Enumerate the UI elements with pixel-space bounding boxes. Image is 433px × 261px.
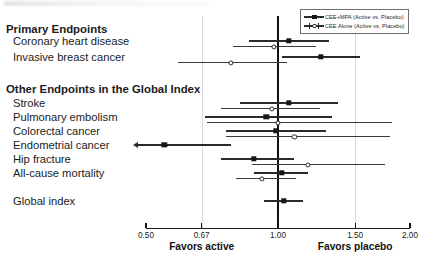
point-estimate-marker-cee-alone (272, 44, 277, 49)
axis-tick-label: 1.50 (347, 232, 363, 240)
point-estimate-marker-cee-mpa (318, 54, 323, 59)
confidence-interval (138, 144, 231, 145)
point-estimate-marker-cee-mpa (251, 156, 256, 161)
confidence-interval (252, 164, 385, 165)
legend-label: CEE Alone (Active vs. Placebo) (325, 23, 405, 29)
point-estimate-marker-cee-alone (270, 106, 275, 111)
confidence-interval (226, 136, 390, 137)
legend-open-circle-icon (303, 22, 325, 30)
point-estimate-marker-cee-alone (275, 120, 280, 125)
axis-tick-0.67 (201, 223, 202, 228)
axis-tick-label: 0.50 (138, 232, 154, 240)
axis-tick-1.00 (277, 223, 278, 228)
gridline-0.67 (202, 16, 203, 228)
axis-tick-label: 2.00 (402, 232, 418, 240)
point-estimate-marker-cee-mpa (161, 142, 166, 147)
axis-tick-2.00 (409, 223, 410, 228)
axis-tick-1.50 (355, 223, 356, 228)
point-estimate-marker-cee-mpa (286, 38, 291, 43)
point-estimate-marker-cee-mpa (281, 198, 286, 203)
x-axis-line (146, 228, 410, 229)
confidence-interval (207, 122, 392, 123)
point-estimate-marker-cee-mpa (263, 114, 268, 119)
point-estimate-marker-cee-alone (305, 162, 310, 167)
favors-placebo-caption: Favors placebo (318, 242, 393, 252)
forest-plot-figure: Primary EndpointsCoronary heart diseaseI… (0, 0, 433, 261)
point-estimate-marker-cee-mpa (286, 100, 291, 105)
point-estimate-marker-cee-alone (260, 176, 265, 181)
point-estimate-marker-cee-mpa (273, 128, 278, 133)
ci-left-arrow (133, 142, 138, 148)
point-estimate-marker-cee-mpa (279, 170, 284, 175)
legend-entry: CEE Alone (Active vs. Placebo) (303, 22, 405, 30)
axis-tick-label: 1.00 (270, 232, 286, 240)
legend-entry: CEE+MPA (Active vs. Placebo) (303, 13, 405, 21)
legend-filled-square-icon (303, 13, 325, 21)
legend-label: CEE+MPA (Active vs. Placebo) (325, 14, 404, 20)
confidence-interval (236, 178, 297, 179)
plot-area: 0.500.671.001.502.00Favors activeFavors … (0, 0, 433, 261)
point-estimate-marker-cee-alone (292, 134, 297, 139)
confidence-interval (221, 158, 295, 159)
legend: CEE+MPA (Active vs. Placebo)CEE Alone (A… (300, 9, 409, 34)
axis-tick-0.50 (145, 223, 146, 228)
axis-tick-label: 0.67 (194, 232, 210, 240)
point-estimate-marker-cee-alone (228, 60, 233, 65)
favors-active-caption: Favors active (169, 242, 234, 252)
